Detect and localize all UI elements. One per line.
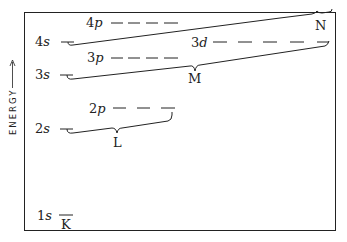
shell-label-l: L — [113, 135, 122, 150]
svg-text:4p: 4p — [86, 15, 103, 30]
shell-label-k: K — [61, 217, 71, 232]
svg-text:1s: 1s — [37, 208, 52, 223]
svg-text:4s: 4s — [35, 34, 50, 49]
energy-axis: ENERGY — [8, 60, 18, 135]
shell-l-brace — [67, 112, 172, 133]
level-4s: 4s — [35, 34, 74, 49]
svg-text:2s: 2s — [35, 121, 50, 136]
energy-level-diagram: ENERGY 4p 4s 3d N 3p 3s M 2p 2s — [0, 0, 347, 242]
shell-label-n: N — [315, 18, 326, 33]
shell-label-m: M — [188, 71, 201, 86]
svg-text:3p: 3p — [87, 50, 104, 65]
level-3p: 3p — [87, 50, 178, 65]
svg-text:2p: 2p — [89, 101, 106, 116]
svg-text:3s: 3s — [35, 67, 50, 82]
level-3d: 3d — [191, 35, 329, 50]
svg-text:3d: 3d — [191, 35, 208, 50]
level-3s: 3s — [35, 67, 73, 82]
level-2p: 2p — [89, 101, 175, 116]
energy-axis-label: ENERGY — [8, 89, 18, 135]
level-4p: 4p — [86, 15, 178, 30]
level-2s: 2s — [35, 121, 73, 136]
